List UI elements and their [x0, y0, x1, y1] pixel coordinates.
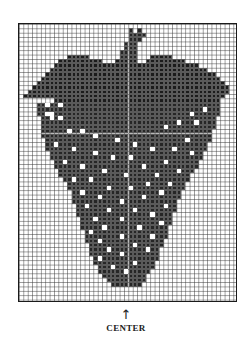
- seed-cell: [133, 243, 137, 247]
- center-marker: ↑ CENTER: [0, 308, 252, 333]
- seed-cell: [93, 217, 97, 221]
- seed-cell: [133, 142, 137, 146]
- seed-cell: [107, 247, 111, 251]
- seed-cell: [93, 134, 97, 138]
- fruit-cell: [159, 243, 163, 247]
- seed-cell: [164, 160, 168, 164]
- fruit-cell: [164, 234, 168, 238]
- center-label: CENTER: [0, 323, 252, 333]
- pattern-chart-grid: [18, 23, 237, 302]
- stem-cell: [137, 37, 141, 41]
- fruit-cell: [194, 164, 198, 168]
- seed-cell: [98, 256, 102, 260]
- fruit-cell: [181, 186, 185, 190]
- fruit-cell: [190, 169, 194, 173]
- fruit-cell: [177, 195, 181, 199]
- fruit-cell: [203, 147, 207, 151]
- seed-cell: [93, 151, 97, 155]
- seed-cell: [194, 120, 198, 124]
- seed-cell: [155, 173, 159, 177]
- seed-cell: [164, 204, 168, 208]
- seed-cell: [72, 177, 76, 181]
- seed-cell: [85, 204, 89, 208]
- fruit-cell: [155, 256, 159, 260]
- seed-cell: [80, 190, 84, 194]
- seed-cell: [120, 199, 124, 203]
- seed-cell: [142, 195, 146, 199]
- seed-cell: [120, 234, 124, 238]
- seed-cell: [150, 234, 154, 238]
- seed-cell: [120, 252, 124, 256]
- seed-cell: [133, 261, 137, 265]
- seed-cell: [80, 129, 84, 133]
- seed-cell: [190, 112, 194, 116]
- seed-cell: [89, 230, 93, 234]
- seed-cell: [137, 225, 141, 229]
- seed-cell: [133, 208, 137, 212]
- seed-cell: [58, 103, 62, 107]
- seed-cell: [203, 107, 207, 111]
- seed-cell: [164, 125, 168, 129]
- seed-cell: [177, 120, 181, 124]
- seed-cell: [159, 221, 163, 225]
- seed-cell: [54, 142, 58, 146]
- seed-cell: [72, 147, 76, 151]
- fruit-cell: [137, 282, 141, 286]
- seed-cell: [111, 155, 115, 159]
- seed-cell: [107, 186, 111, 190]
- seed-cell: [190, 151, 194, 155]
- fruit-cell: [207, 138, 211, 142]
- fruit-cell: [199, 155, 203, 159]
- fruit-cell: [212, 125, 216, 129]
- seed-cell: [115, 138, 119, 142]
- seed-cell: [150, 212, 154, 216]
- fruit-cell: [168, 221, 172, 225]
- seed-cell: [45, 103, 49, 107]
- fruit-cell: [150, 265, 154, 269]
- fruit-cell: [172, 208, 176, 212]
- seed-cell: [50, 116, 54, 120]
- seed-cell: [124, 269, 128, 273]
- seed-cell: [150, 147, 154, 151]
- fruit-cell: [216, 112, 220, 116]
- seed-cell: [172, 147, 176, 151]
- seed-cell: [111, 265, 115, 269]
- seed-cell: [129, 155, 133, 159]
- seed-cell: [185, 138, 189, 142]
- seed-cell: [89, 177, 93, 181]
- seed-cell: [102, 169, 106, 173]
- leaf-cell: [225, 90, 229, 94]
- fruit-cell: [185, 177, 189, 181]
- seed-cell: [63, 160, 67, 164]
- seed-cell: [102, 225, 106, 229]
- leaf-cell: [220, 94, 224, 98]
- up-arrow-icon: ↑: [0, 308, 252, 321]
- stem-cell: [142, 33, 146, 37]
- seed-cell: [177, 169, 181, 173]
- seed-cell: [120, 217, 124, 221]
- seed-cell: [159, 190, 163, 194]
- seed-cell: [98, 195, 102, 199]
- fruit-cell: [146, 269, 150, 273]
- seed-cell: [129, 186, 133, 190]
- seed-cell: [146, 182, 150, 186]
- seed-cell: [80, 164, 84, 168]
- seed-cell: [107, 208, 111, 212]
- seed-cell: [124, 173, 128, 177]
- seed-cell: [146, 247, 150, 251]
- seed-cell: [142, 164, 146, 168]
- seed-cell: [67, 129, 71, 133]
- seed-cell: [168, 182, 172, 186]
- fruit-cell: [142, 278, 146, 282]
- seed-cell: [98, 239, 102, 243]
- seed-cell: [58, 116, 62, 120]
